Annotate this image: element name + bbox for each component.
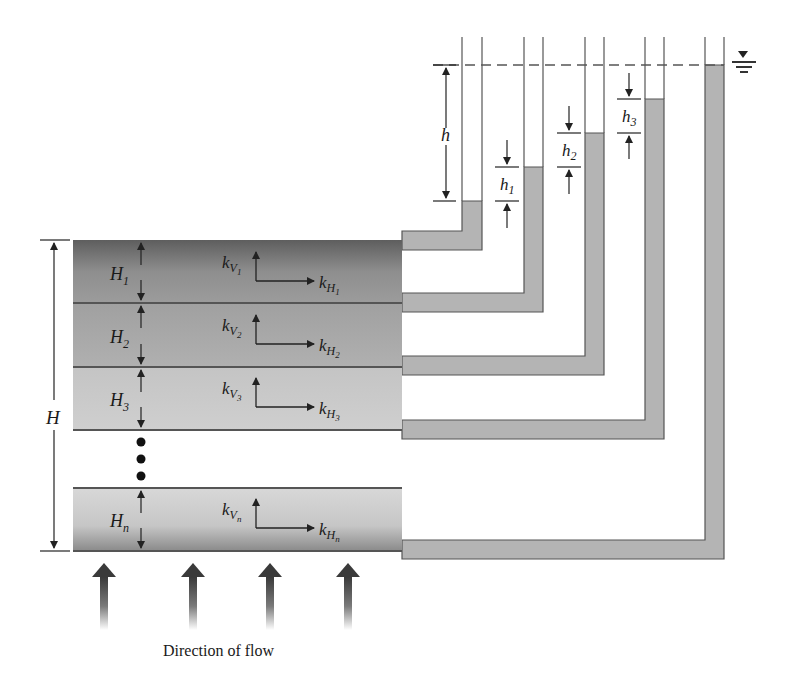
total-thickness-label: H	[45, 407, 61, 428]
flow-arrow-icon	[336, 563, 360, 630]
piezometer-pipes	[402, 65, 724, 559]
total-thickness-dimension	[40, 240, 70, 551]
h1-label: h1	[500, 175, 515, 197]
flow-arrows	[92, 563, 360, 630]
layered-soil-permeability-diagram: h h1 h2 h3	[0, 0, 796, 686]
ellipsis-dots	[137, 438, 146, 481]
pipe-layer-1	[402, 201, 482, 250]
water-table-icon	[732, 51, 756, 72]
h2-label: h2	[562, 141, 577, 163]
flow-direction-caption: Direction of flow	[163, 642, 275, 659]
flow-arrow-icon	[258, 563, 282, 630]
h3-label: h3	[622, 107, 637, 129]
head-loss-label: h	[441, 125, 450, 145]
pipe-layer-3	[402, 133, 604, 375]
flow-arrow-icon	[181, 563, 205, 630]
flow-arrow-icon	[92, 563, 116, 630]
